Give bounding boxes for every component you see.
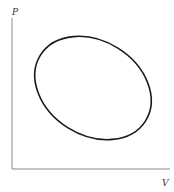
x-axis-label: V [162, 178, 170, 188]
cycle-curve [16, 15, 171, 160]
y-axis-label: P [11, 7, 19, 17]
pv-diagram: P V [0, 0, 174, 192]
